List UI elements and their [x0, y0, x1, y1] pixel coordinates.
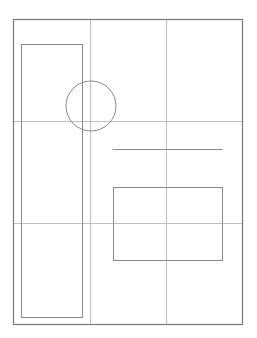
wireframe-canvas [0, 0, 257, 338]
tall-column-placeholder [22, 45, 83, 318]
circle-placeholder [66, 81, 116, 131]
thirds-grid [14, 20, 243, 325]
page-frame [14, 20, 243, 325]
placeholder-shapes [22, 45, 223, 318]
image-box-placeholder [114, 188, 223, 261]
